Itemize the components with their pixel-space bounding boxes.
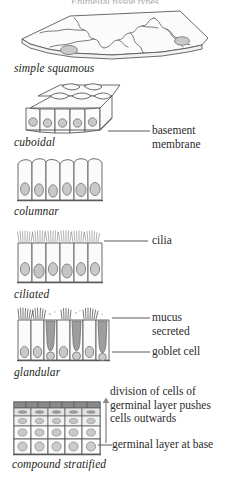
label-glandular: glandular: [14, 366, 60, 378]
label-simple-squamous: simple squamous: [14, 62, 94, 74]
squamous-sheet: [22, 11, 208, 55]
epithelial-tissue-diagram: Epithelial tissue types: [0, 0, 230, 481]
leader-cilia: [104, 236, 159, 246]
label-ciliated: ciliated: [14, 288, 49, 300]
annotation-germinal-layer: germinal layer at base: [112, 438, 213, 452]
annotation-division-note: division of cells of germinal layer push…: [110, 385, 230, 426]
basement-membrane-line1: basement: [152, 124, 201, 138]
division-line3: cells outwards: [110, 412, 230, 426]
annotation-goblet-cell: goblet cell: [152, 345, 200, 359]
division-line2: germinal layer pushes: [110, 399, 230, 413]
leader-basement-membrane: [108, 126, 158, 136]
annotation-cilia: cilia: [152, 234, 172, 248]
mucus-line2: secreted: [152, 325, 190, 339]
goblet-line1: goblet cell: [152, 345, 200, 359]
annotation-mucus-secreted: mucus secreted: [152, 311, 190, 338]
figure-columnar: [16, 156, 126, 206]
figure-simple-squamous: [12, 8, 212, 60]
mucus-line1: mucus: [152, 311, 190, 325]
division-line1: division of cells of: [110, 385, 230, 399]
page-title: Epithelial tissue types: [0, 0, 230, 4]
basement-membrane-line2: membrane: [152, 138, 201, 152]
label-compound-stratified: compound stratified: [12, 458, 106, 470]
stratified-layer-top: [14, 402, 100, 408]
mucus-tufts: [18, 308, 98, 319]
label-cuboidal: cuboidal: [14, 136, 55, 148]
annotation-basement-membrane: basement membrane: [152, 124, 201, 151]
label-columnar: columnar: [14, 205, 59, 217]
germinal-line1: germinal layer at base: [112, 438, 213, 452]
cilia-tufts: [18, 231, 100, 243]
cilia-line1: cilia: [152, 234, 172, 248]
figure-compound-stratified: [12, 400, 112, 458]
